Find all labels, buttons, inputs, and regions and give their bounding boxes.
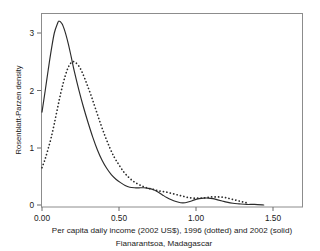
x-tick-label-0: 0.00: [34, 213, 51, 223]
x-axis-title: Per capita daily income (2002 US$), 1996…: [52, 226, 293, 235]
y-tick-label-0: 0: [29, 200, 34, 210]
x-tick-label-2: 1.00: [188, 213, 205, 223]
chart-canvas: 0.00 0.50 1.00 1.50 0 1 2 3 Rosenblatt-P…: [0, 0, 320, 251]
y-tick-label-2: 2: [29, 86, 34, 96]
chart-subcaption: Fianarantsoa, Madagascar: [116, 239, 213, 248]
density-chart-figure: 0.00 0.50 1.00 1.50 0 1 2 3 Rosenblatt-P…: [0, 0, 320, 251]
y-tick-label-1: 1: [29, 143, 34, 153]
x-tick-label-3: 1.50: [265, 213, 282, 223]
y-tick-label-3: 3: [29, 28, 34, 38]
y-axis-title: Rosenblatt-Parzen density: [14, 65, 23, 154]
x-tick-label-1: 0.50: [111, 213, 128, 223]
